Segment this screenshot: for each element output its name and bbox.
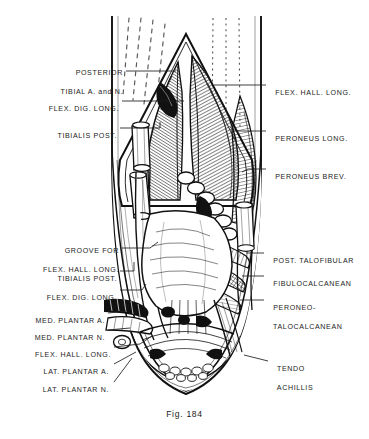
label-line: TIBIALIS POST. bbox=[57, 132, 117, 140]
label-line: MED. PLANTAR N. bbox=[35, 334, 105, 342]
label-line: TALOCALCANEAN bbox=[273, 323, 342, 331]
label-line: FLEX. HALL. LONG. bbox=[275, 89, 351, 97]
label-fibulocalcanean: FIBULOCALCANEAN bbox=[268, 271, 369, 289]
label-line: PERONEUS BREV. bbox=[275, 173, 346, 181]
talus-calcaneus-body bbox=[142, 211, 232, 316]
label-post-talofibular: POST. TALOFIBULAR bbox=[268, 248, 369, 266]
label-line: MED. PLANTAR A. bbox=[36, 317, 105, 325]
label-line: LAT. PLANTAR A. bbox=[44, 368, 109, 376]
label-flex-hall-long-upper: FLEX. HALL. LONG. bbox=[270, 80, 369, 98]
label-line: POST. TALOFIBULAR bbox=[273, 257, 354, 265]
label-med-plantar-a: MED. PLANTAR A. bbox=[4, 308, 105, 326]
label-posterior-tibial-a-n: POSTERIOR TIBIAL A. and N. bbox=[10, 60, 123, 97]
label-flex-hall-long-lower: FLEX. HALL. LONG. bbox=[4, 342, 111, 360]
label-flex-dig-long-lower: FLEX. DIG. LONG. bbox=[10, 285, 117, 303]
label-line: LAT. PLANTAR N. bbox=[43, 386, 109, 394]
label-tibialis-post-upper: TIBIALIS POST. bbox=[10, 123, 117, 141]
label-line: TIBIALIS POST. bbox=[57, 275, 117, 283]
label-peroneus-brev: PERONEUS BREV. bbox=[270, 164, 369, 182]
label-flex-dig-long-upper: FLEX. DIG. LONG. bbox=[10, 96, 119, 114]
label-tibialis-post-lower: TIBIALIS POST. bbox=[10, 266, 117, 284]
label-line: FLEX. DIG. LONG. bbox=[47, 294, 117, 302]
label-peroneo-talocalcanean: PERONEO- TALOCALCANEAN bbox=[268, 295, 369, 332]
label-line: FIBULOCALCANEAN bbox=[273, 280, 351, 288]
label-med-plantar-n: MED. PLANTAR N. bbox=[4, 325, 105, 343]
label-peroneus-long: PERONEUS LONG. bbox=[270, 126, 369, 144]
label-line: POSTERIOR bbox=[76, 69, 123, 77]
label-line: TIBIAL A. and N. bbox=[61, 88, 124, 96]
label-line: FLEX. HALL. LONG. bbox=[35, 351, 111, 359]
label-line: PERONEO- bbox=[273, 304, 316, 312]
label-line: GROOVE FOR bbox=[65, 247, 119, 255]
label-line: ACHILLIS bbox=[277, 384, 314, 392]
label-tendo-achillis: TENDO ACHILLIS bbox=[272, 356, 369, 393]
label-line: FLEX. DIG. LONG. bbox=[49, 105, 119, 113]
figure-caption: Fig. 184 bbox=[0, 409, 369, 419]
label-lat-plantar-n: LAT. PLANTAR N. bbox=[4, 377, 109, 395]
label-lat-plantar-a: LAT. PLANTAR A. bbox=[4, 359, 109, 377]
tibialis-posterior-tendon bbox=[132, 122, 150, 171]
label-line: PERONEUS LONG. bbox=[275, 135, 348, 143]
label-line: TENDO bbox=[277, 365, 305, 373]
